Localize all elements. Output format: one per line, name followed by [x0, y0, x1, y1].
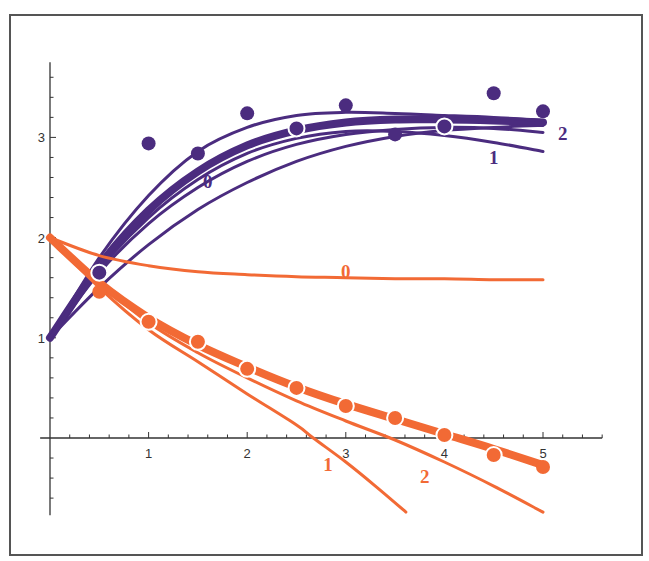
curve-label-purple: 1	[489, 147, 499, 168]
x-tick-label: 5	[539, 446, 546, 461]
orange-data-point	[141, 314, 157, 330]
orange-data-point	[338, 398, 354, 414]
y-tick-label: 3	[38, 130, 45, 145]
purple-data-point	[487, 86, 501, 100]
orange-fit-thick-curve	[50, 238, 543, 466]
purple-data-point	[289, 120, 305, 136]
curve-label-orange: 1	[323, 454, 333, 475]
purple-data-point	[436, 118, 452, 134]
curve-label-purple: 2	[558, 123, 568, 144]
orange-data-point	[387, 410, 403, 426]
chart: 12345123 012012	[0, 0, 649, 561]
x-tick-label: 4	[441, 446, 448, 461]
orange-data-point	[239, 361, 255, 377]
purple-data-point	[191, 146, 205, 160]
orange-data-point	[486, 447, 502, 463]
curve-label-purple: 0	[203, 171, 213, 192]
purple-data-point	[142, 136, 156, 150]
purple-data-point	[91, 265, 107, 281]
orange-data-point	[289, 380, 305, 396]
curves	[50, 112, 543, 512]
purple-data-point	[339, 98, 353, 112]
y-tick-label: 1	[38, 331, 45, 346]
x-tick-label: 2	[244, 446, 251, 461]
orange-data-point	[190, 334, 206, 350]
y-tick-label: 2	[38, 231, 45, 246]
purple-data-point	[536, 104, 550, 118]
orange-data-point	[92, 285, 106, 299]
curve-label-orange: 0	[341, 261, 351, 282]
x-tick-label: 1	[145, 446, 152, 461]
orange-data-point	[436, 427, 452, 443]
purple-data-point	[388, 127, 402, 141]
orange-data-point	[536, 460, 550, 474]
curve-label-orange: 2	[420, 466, 430, 487]
purple-data-point	[240, 106, 254, 120]
